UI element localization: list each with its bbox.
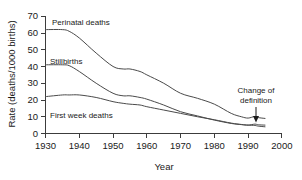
series-label-first-week-deaths: First week deaths — [50, 111, 113, 120]
y-tick-label-70: 70 — [27, 10, 38, 21]
y-tick-label-30: 30 — [27, 77, 38, 88]
y-tick-label-0: 0 — [33, 128, 38, 139]
y-tick-label-40: 40 — [27, 61, 38, 72]
y-tick-label-60: 60 — [27, 27, 38, 38]
x-tick-label-1990: 1990 — [238, 140, 259, 151]
y-axis-title: Rate (deaths/1000 births) — [6, 20, 17, 127]
x-tick-label-1980: 1980 — [204, 140, 225, 151]
x-tick-marks — [46, 134, 282, 139]
perinatal-mortality-chart: 0 10 20 30 40 50 60 70 1930 1940 1950 19… — [0, 0, 302, 180]
series-label-perinatal-deaths: Perinatal deaths — [52, 18, 110, 27]
annotation-change-of-definition-line1: Change of — [238, 86, 276, 95]
x-tick-label-1970: 1970 — [170, 140, 191, 151]
x-tick-label-1960: 1960 — [136, 140, 157, 151]
y-tick-label-10: 10 — [27, 111, 38, 122]
x-tick-label-1930: 1930 — [35, 140, 56, 151]
x-axis-title: Year — [154, 161, 173, 172]
x-tick-label-2000: 2000 — [271, 140, 292, 151]
annotation-change-of-definition-line2: definition — [240, 96, 272, 105]
annotation-arrow-head-icon — [253, 116, 259, 123]
y-tick-marks — [41, 16, 46, 133]
curve-perinatal-deaths — [46, 29, 266, 118]
series-label-stillbirths: Stillbirths — [50, 57, 82, 66]
x-tick-label-1940: 1940 — [69, 140, 90, 151]
y-tick-label-50: 50 — [27, 44, 38, 55]
y-tick-label-20: 20 — [27, 94, 38, 105]
chart-svg: 0 10 20 30 40 50 60 70 1930 1940 1950 19… — [0, 0, 302, 180]
x-tick-label-1950: 1950 — [102, 140, 123, 151]
